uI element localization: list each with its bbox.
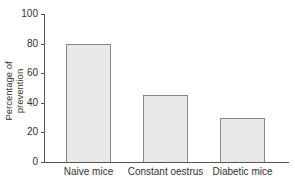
- y-tick-mark: [41, 103, 44, 104]
- y-tick-mark: [41, 132, 44, 133]
- bar-chart: Percentage of prevention 020406080100 Na…: [0, 0, 295, 185]
- bar: [143, 95, 188, 162]
- y-tick-label: 100: [18, 8, 38, 19]
- x-axis: [44, 162, 289, 163]
- bar: [66, 44, 111, 162]
- y-tick-mark: [41, 73, 44, 74]
- x-category-label: Diabetic mice: [198, 166, 288, 177]
- y-tick-label: 20: [18, 126, 38, 137]
- y-tick-label: 80: [18, 38, 38, 49]
- bar: [220, 118, 265, 162]
- y-tick-mark: [41, 44, 44, 45]
- y-tick-mark: [41, 162, 44, 163]
- y-axis: [44, 14, 45, 162]
- y-tick-label: 60: [18, 67, 38, 78]
- y-tick-label: 0: [18, 156, 38, 167]
- y-tick-mark: [41, 14, 44, 15]
- y-tick-label: 40: [18, 97, 38, 108]
